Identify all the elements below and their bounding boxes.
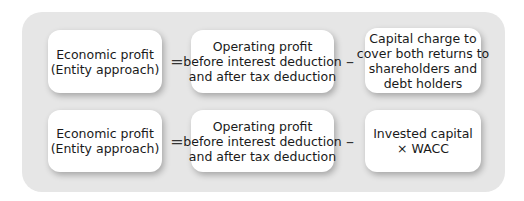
row1-operating-profit-box: Operating profit before interest deducti… [191,30,334,93]
text-line: Operating profit [183,119,341,134]
row2-operating-profit-box: Operating profit before interest deducti… [191,110,334,172]
text-line: cover both returns to [357,46,489,61]
text-line: before interest deduction [183,54,341,69]
text-line: debt holders [357,76,489,91]
row2-minus-sign: – [340,132,360,151]
text-line: Economic profit [51,126,160,141]
text-line: × WACC [373,141,473,156]
text-line: Capital charge to [357,31,489,46]
text-line: before interest deduction [183,134,341,149]
row1-economic-profit-box: Economic profit (Entity approach) [48,30,162,93]
row1-capital-charge-box: Capital charge to cover both returns to … [365,28,481,93]
text-line: and after tax deduction [183,69,341,84]
text-line: (Entity approach) [51,62,160,77]
text-line: shareholders and [357,61,489,76]
text-line: (Entity approach) [51,141,160,156]
text-line: Operating profit [183,39,341,54]
text-line: Economic profit [51,47,160,62]
text-line: and after tax deduction [183,149,341,164]
row2-invested-capital-box: Invested capital × WACC [365,110,481,172]
row2-economic-profit-box: Economic profit (Entity approach) [48,110,162,172]
text-line: Invested capital [373,126,473,141]
